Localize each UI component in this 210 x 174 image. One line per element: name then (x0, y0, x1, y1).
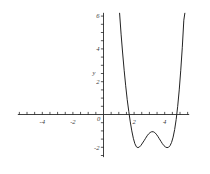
y-tick-label: -2 (94, 144, 100, 151)
curve-path (120, 13, 185, 148)
plot-container: -4-2240246-2y (0, 0, 210, 174)
x-tick-label: -4 (40, 118, 46, 125)
curve-series (120, 13, 185, 148)
chart-canvas: -4-2240246-2y (0, 0, 210, 174)
y-tick-label: 0 (97, 115, 101, 122)
y-tick-label: 2 (96, 78, 100, 85)
y-tick-label: 6 (96, 12, 100, 19)
x-tick-label: -2 (70, 118, 76, 125)
x-tick-label: 4 (163, 118, 167, 125)
y-axis (101, 13, 104, 157)
x-tick-label: 2 (132, 118, 136, 125)
y-tick-label: 4 (96, 45, 100, 52)
y-axis-name: y (92, 69, 96, 76)
